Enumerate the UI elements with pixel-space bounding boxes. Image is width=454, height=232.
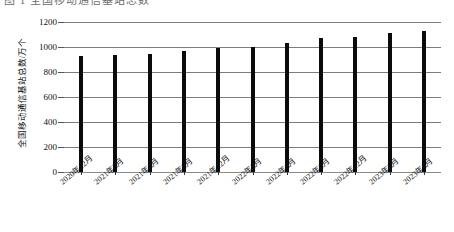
x-axis-label-group: 2020年12月2021年3月2021年6月2021年9月2021年12月202… bbox=[0, 0, 454, 232]
x-axis-tick-label: 2022年3月 bbox=[229, 155, 264, 187]
x-axis-tick-label: 2021年9月 bbox=[160, 155, 195, 187]
x-axis-tick-label: 2022年9月 bbox=[297, 155, 332, 187]
x-axis-tick-label: 2021年6月 bbox=[126, 155, 161, 187]
x-axis-tick-label: 2021年12月 bbox=[194, 152, 232, 186]
x-axis-tick-label: 2023年6月 bbox=[400, 155, 435, 187]
x-axis-tick-label: 2020年12月 bbox=[57, 152, 95, 186]
scan-edge-band bbox=[0, 229, 454, 232]
x-axis-tick-label: 2023年3月 bbox=[366, 155, 401, 187]
x-axis-tick-label: 2021年3月 bbox=[91, 155, 126, 187]
x-axis-tick-label: 2022年6月 bbox=[263, 155, 298, 187]
x-axis-tick-label: 2022年12月 bbox=[331, 152, 369, 186]
figure-container: 图 1 全国移动通信基站总数 全国移动通信基站总数/万个 02004006008… bbox=[0, 0, 454, 232]
